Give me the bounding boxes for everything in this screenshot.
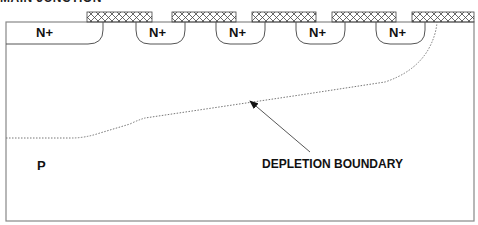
n-plus-label: N+ bbox=[149, 25, 166, 40]
gate-oxide-blocks bbox=[87, 12, 474, 22]
n-plus-label: N+ bbox=[229, 25, 246, 40]
gate-block bbox=[412, 12, 474, 22]
gate-block bbox=[172, 12, 236, 22]
depletion-boundary-label: DEPLETION BOUNDARY bbox=[262, 157, 403, 171]
n-plus-label: N+ bbox=[36, 25, 53, 40]
p-substrate bbox=[6, 22, 474, 221]
p-substrate-label: P bbox=[37, 158, 46, 173]
n-plus-label: N+ bbox=[309, 25, 326, 40]
n-plus-label: N+ bbox=[389, 25, 406, 40]
gate-block bbox=[332, 12, 396, 22]
junction-cross-section: N+ N+ N+ N+ N+ P DEPLETION BOUNDARY bbox=[0, 0, 478, 225]
gate-block bbox=[252, 12, 316, 22]
gate-block bbox=[87, 12, 152, 22]
